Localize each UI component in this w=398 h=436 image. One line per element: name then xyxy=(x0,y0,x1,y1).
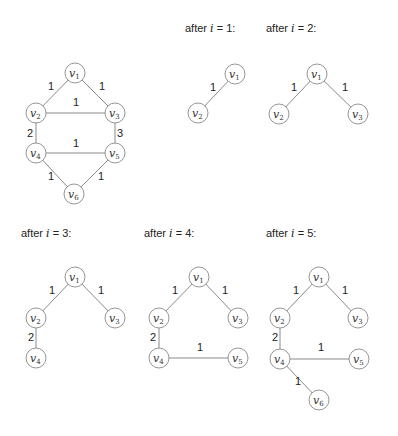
node-v6: v6 xyxy=(309,390,329,410)
node-v3: v3 xyxy=(348,308,368,328)
edge-weight-label: 1 xyxy=(48,80,54,92)
edge-weight-label: 1 xyxy=(293,284,299,296)
panel-caption: after i = 2: xyxy=(266,22,316,35)
panel-caption: after i = 5: xyxy=(266,227,316,240)
node-v4: v4 xyxy=(26,348,46,368)
edge-weight-label: 1 xyxy=(48,170,54,182)
node-v2: v2 xyxy=(188,103,208,123)
graph-canvas: 11123111v1v2v3v4v5v6after i = 1:1v1v2aft… xyxy=(0,0,398,436)
node-v1: v1 xyxy=(225,64,245,84)
node-v1: v1 xyxy=(307,64,327,84)
panel-caption: after i = 1: xyxy=(185,22,235,35)
panel-after-5: after i = 5:11211v1v2v3v4v5v6 xyxy=(266,227,369,410)
edge-weight-label: 1 xyxy=(98,284,104,296)
panel-after-1: after i = 1:1v1v2 xyxy=(185,22,245,123)
node-v1: v1 xyxy=(309,267,329,287)
node-v3: v3 xyxy=(105,308,125,328)
node-v1: v1 xyxy=(65,63,85,83)
edge-weight-label: 1 xyxy=(222,284,228,296)
node-v2: v2 xyxy=(26,103,46,123)
node-v6: v6 xyxy=(64,184,84,204)
node-v5: v5 xyxy=(349,349,369,369)
node-v1: v1 xyxy=(189,267,209,287)
node-v4: v4 xyxy=(149,348,169,368)
node-v4: v4 xyxy=(270,349,290,369)
edge-weight-label: 2 xyxy=(150,331,156,343)
node-v3: v3 xyxy=(348,104,368,124)
node-v4: v4 xyxy=(26,143,46,163)
node-v2: v2 xyxy=(269,104,289,124)
edge-weight-label: 2 xyxy=(27,127,33,139)
node-v1: v1 xyxy=(65,267,85,287)
node-v2: v2 xyxy=(270,308,290,328)
edge-weight-label: 1 xyxy=(49,284,55,296)
panel-caption: after i = 3: xyxy=(21,227,71,240)
edge-weight-label: 1 xyxy=(73,137,79,149)
edge-weight-label: 2 xyxy=(272,331,278,343)
edge-weight-label: 1 xyxy=(295,375,301,387)
edge-weight-label: 3 xyxy=(117,127,123,139)
node-v5: v5 xyxy=(228,348,248,368)
edge-weight-label: 2 xyxy=(28,331,34,343)
panel-caption: after i = 4: xyxy=(144,227,194,240)
node-v5: v5 xyxy=(105,143,125,163)
edge-weight-label: 1 xyxy=(342,284,348,296)
panel-after-4: after i = 4:1121v1v2v3v4v5 xyxy=(144,227,248,368)
node-v3: v3 xyxy=(105,103,125,123)
node-v2: v2 xyxy=(149,308,169,328)
panel-original: 11123111v1v2v3v4v5v6 xyxy=(26,63,125,204)
panel-after-3: after i = 3:112v1v2v3v4 xyxy=(21,227,125,368)
node-v2: v2 xyxy=(26,308,46,328)
edge-weight-label: 1 xyxy=(291,81,297,93)
edge-weight-label: 1 xyxy=(197,341,203,353)
edge-weight-label: 1 xyxy=(98,170,104,182)
edge-weight-label: 1 xyxy=(210,81,216,93)
edge-weight-label: 1 xyxy=(172,284,178,296)
edge-weight-label: 1 xyxy=(73,96,79,108)
edge-weight-label: 1 xyxy=(318,341,324,353)
edge-weight-label: 1 xyxy=(99,80,105,92)
panel-after-2: after i = 2:11v1v2v3 xyxy=(266,22,368,124)
node-v3: v3 xyxy=(228,308,248,328)
edge-weight-label: 1 xyxy=(342,81,348,93)
